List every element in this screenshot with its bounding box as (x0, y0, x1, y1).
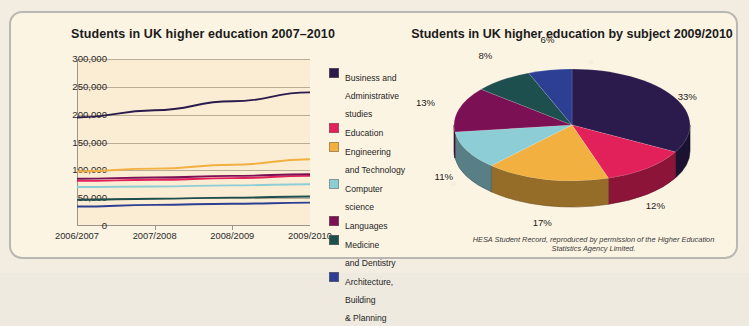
legend-item: Business and Administrative studies (329, 67, 415, 121)
line-series-group (77, 59, 310, 226)
legend-item: Medicine and Dentistry (329, 234, 415, 270)
legend-color-swatch (329, 216, 339, 226)
x-axis-tick-mark (155, 226, 156, 230)
pie-chart-figure: Students in UK higher education by subje… (411, 13, 740, 261)
legend-item: Engineering and Technology (329, 141, 415, 177)
legend-item: Education (329, 122, 415, 140)
x-axis-tick-mark (232, 226, 233, 230)
legend-item-label: Architecture, Building & Planning (345, 277, 393, 323)
pie-graphic: 33%12%17%11%13%8%6% (411, 43, 740, 213)
legend-item-label: Computer science (345, 184, 383, 212)
pie-value-label: 17% (533, 217, 552, 228)
legend-item-label: Education (345, 128, 383, 138)
legend-color-swatch (329, 272, 339, 282)
x-axis-tick-label: 2007/2008 (118, 231, 192, 241)
legend-item-label: Business and Administrative studies (345, 73, 399, 119)
line-chart-title: Students in UK higher education 2007–201… (33, 27, 373, 41)
legend-color-swatch (329, 142, 339, 152)
pie-value-label: 12% (646, 200, 665, 211)
pie-svg (411, 43, 740, 213)
legend-item-label: Languages (345, 221, 388, 231)
line-series (77, 203, 310, 207)
legend-color-swatch (329, 235, 339, 245)
figure-panel: Students in UK higher education 2007–201… (9, 11, 738, 259)
source-credit: HESA Student Record, reproduced by permi… (471, 235, 716, 253)
line-series (77, 196, 310, 199)
line-series (77, 184, 310, 187)
legend-color-swatch (329, 68, 339, 78)
line-series (77, 92, 310, 117)
pie-value-label: 13% (416, 97, 435, 108)
legend-color-swatch (329, 179, 339, 189)
legend-item: Computer science (329, 178, 415, 214)
pie-value-label: 6% (541, 34, 555, 45)
legend-item: Architecture, Building & Planning (329, 271, 415, 325)
legend-color-swatch (329, 123, 339, 133)
x-axis-tick-label: 2006/2007 (40, 231, 114, 241)
chart-legend: Business and Administrative studiesEduca… (329, 67, 415, 326)
line-series (77, 159, 310, 171)
legend-item-label: Engineering and Technology (345, 147, 405, 175)
x-axis-tick-label: 2008/2009 (195, 231, 269, 241)
pie-value-label: 33% (678, 91, 697, 102)
pie-value-label: 8% (478, 50, 492, 61)
legend-item: Languages (329, 215, 415, 233)
pie-value-label: 11% (435, 171, 454, 182)
pie-chart-title: Students in UK higher education by subje… (411, 27, 733, 41)
legend-item-label: Medicine and Dentistry (345, 240, 396, 268)
